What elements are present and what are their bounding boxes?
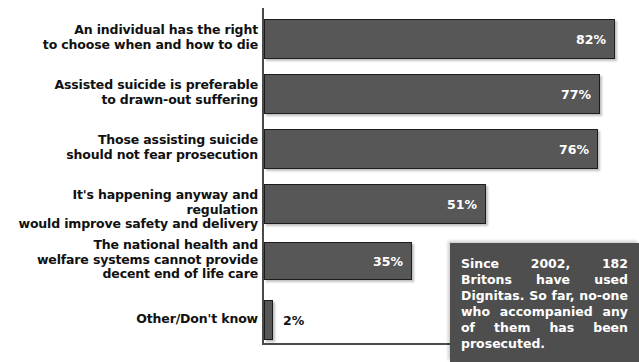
bar-row: It's happening anyway and regulation wou…: [0, 184, 639, 224]
bar-value-label: 51%: [447, 197, 477, 212]
bar-row: Assisted suicide is preferable to drawn-…: [0, 74, 639, 114]
dignitas-fact-box: Since 2002, 182 Britons have used Dignit…: [450, 243, 639, 362]
category-label: It's happening anyway and regulation wou…: [0, 188, 258, 232]
bar-track: 76%: [264, 129, 598, 169]
bar-segment[interactable]: 77%: [264, 74, 600, 114]
bar-track: 82%: [264, 19, 615, 59]
dignitas-fact-text: Since 2002, 182 Britons have used Dignit…: [461, 256, 628, 352]
category-label: Assisted suicide is preferable to drawn-…: [54, 78, 258, 107]
bar-segment[interactable]: 51%: [264, 184, 486, 224]
bar-track: 35%: [264, 242, 412, 280]
bar-segment[interactable]: [264, 300, 273, 340]
bar-track: 51%: [264, 184, 486, 224]
category-label: Other/Don't know: [136, 312, 258, 327]
bar-row: An individual has the right to choose wh…: [0, 19, 639, 59]
category-label: Those assisting suicide should not fear …: [66, 133, 258, 162]
bar-value-label: 76%: [559, 142, 589, 157]
bar-track: 2%: [264, 300, 273, 340]
bar-value-label: 35%: [373, 254, 403, 269]
bar-track: 77%: [264, 74, 600, 114]
bar-value-label: 82%: [576, 32, 606, 47]
chart-screenshot: An individual has the right to choose wh…: [0, 0, 639, 362]
bar-value-label: 77%: [561, 87, 591, 102]
bar-row: Those assisting suicide should not fear …: [0, 129, 639, 169]
bar-segment[interactable]: 35%: [264, 242, 412, 280]
category-label: The national health and welfare systems …: [37, 238, 258, 282]
category-label: An individual has the right to choose wh…: [43, 23, 258, 52]
bar-segment[interactable]: 82%: [264, 19, 615, 59]
clipped-title-strip: [0, 0, 639, 8]
bar-value-label: 2%: [283, 313, 304, 328]
bar-segment[interactable]: 76%: [264, 129, 598, 169]
